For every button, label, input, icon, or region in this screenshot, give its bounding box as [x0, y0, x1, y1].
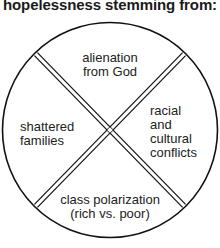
quadrant-left-line-2: families — [20, 134, 74, 148]
quadrant-label-right: racial and cultural conflicts — [150, 104, 197, 160]
center-crossing — [107, 127, 113, 133]
quadrant-bottom-line-2: (rich vs. poor) — [40, 207, 180, 221]
quadrant-label-top: alienation from God — [60, 51, 160, 79]
quadrant-bottom-line-1: class polarization — [40, 193, 180, 207]
quadrant-top-line-1: alienation — [60, 51, 160, 65]
quadrant-right-line-4: conflicts — [150, 146, 197, 160]
quadrant-right-line-3: cultural — [150, 132, 197, 146]
quadrant-top-line-2: from God — [60, 65, 160, 79]
quadrant-right-line-2: and — [150, 118, 197, 132]
quadrant-label-left: shattered families — [20, 120, 74, 148]
quadrant-label-bottom: class polarization (rich vs. poor) — [40, 193, 180, 221]
quadrant-right-line-1: racial — [150, 104, 197, 118]
quadrant-left-line-1: shattered — [20, 120, 74, 134]
